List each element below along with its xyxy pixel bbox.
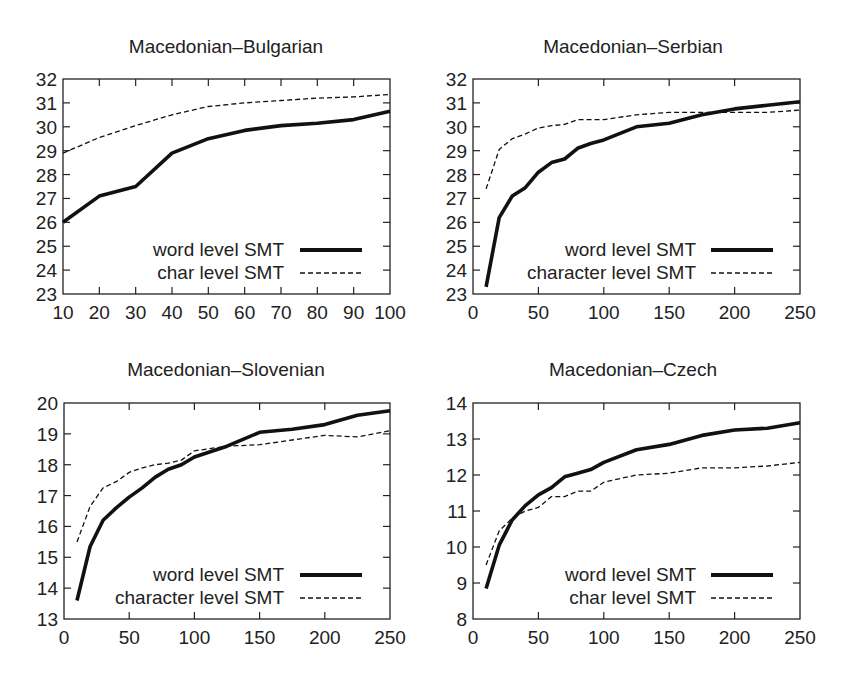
y-tick-label: 26	[36, 212, 57, 233]
char-level-line	[63, 95, 390, 154]
x-tick-label: 50	[119, 627, 140, 648]
legend-label-char: character level SMT	[527, 262, 696, 283]
y-tick-label: 29	[446, 141, 467, 162]
y-tick-label: 27	[36, 188, 57, 209]
y-tick-label: 18	[37, 455, 58, 476]
legend: word level SMT character level SMT	[527, 239, 773, 283]
x-tick-label: 200	[719, 302, 751, 323]
legend-label-char: char level SMT	[157, 262, 284, 283]
x-tick-label: 100	[588, 302, 620, 323]
x-tick-label: 100	[374, 302, 406, 323]
char-level-line	[486, 462, 800, 565]
y-tick-label: 24	[36, 260, 58, 281]
y-tick-label: 32	[36, 69, 57, 90]
x-tick-label: 50	[528, 627, 549, 648]
y-tick-label: 15	[37, 547, 58, 568]
axes: 050100150200250891011121314	[446, 393, 816, 648]
panel-title: Macedonian–Bulgarian	[129, 36, 323, 57]
y-tick-label: 25	[36, 236, 57, 257]
x-tick-label: 90	[343, 302, 364, 323]
x-tick-label: 0	[59, 627, 70, 648]
x-tick-label: 250	[784, 627, 816, 648]
legend-label-word: word level SMT	[152, 564, 284, 585]
char-level-line	[77, 431, 390, 542]
x-tick-label: 60	[234, 302, 255, 323]
y-tick-label: 17	[37, 486, 58, 507]
x-tick-label: 70	[270, 302, 291, 323]
x-tick-label: 80	[307, 302, 328, 323]
y-tick-label: 8	[456, 609, 467, 630]
legend: word level SMT character level SMT	[115, 564, 362, 608]
y-tick-label: 11	[447, 501, 467, 522]
x-tick-label: 250	[374, 627, 406, 648]
y-tick-label: 24	[446, 260, 468, 281]
y-tick-label: 25	[446, 236, 467, 257]
legend-label-char: character level SMT	[115, 587, 284, 608]
legend: word level SMT char level SMT	[564, 564, 773, 608]
x-tick-label: 50	[528, 302, 549, 323]
x-tick-label: 200	[719, 627, 751, 648]
y-tick-label: 28	[36, 165, 57, 186]
y-tick-label: 30	[36, 117, 57, 138]
x-tick-label: 0	[468, 302, 479, 323]
x-tick-label: 150	[244, 627, 276, 648]
x-tick-label: 40	[161, 302, 182, 323]
x-tick-label: 150	[653, 627, 685, 648]
x-tick-label: 100	[588, 627, 620, 648]
legend-label-char: char level SMT	[569, 587, 696, 608]
y-tick-label: 23	[36, 284, 57, 305]
panel-macedonian-bulgarian: Macedonian–Bulgarian 1020304050607080901…	[36, 36, 406, 323]
word-level-line	[63, 111, 390, 222]
y-tick-label: 13	[37, 609, 58, 630]
panel-macedonian-slovenian: Macedonian–Slovenian 0501001502002501314…	[37, 359, 406, 648]
panel-title: Macedonian–Czech	[549, 359, 717, 380]
y-tick-label: 30	[446, 117, 467, 138]
x-tick-label: 30	[125, 302, 146, 323]
y-tick-label: 13	[446, 429, 467, 450]
x-tick-label: 150	[653, 302, 685, 323]
panel-macedonian-czech: Macedonian–Czech 05010015020025089101112…	[446, 359, 816, 648]
y-tick-label: 26	[446, 212, 467, 233]
x-tick-label: 250	[784, 302, 816, 323]
y-tick-label: 9	[456, 573, 467, 594]
y-tick-label: 31	[446, 93, 467, 114]
legend-label-word: word level SMT	[564, 564, 696, 585]
y-tick-label: 29	[36, 141, 57, 162]
x-tick-label: 0	[468, 627, 479, 648]
y-tick-label: 31	[36, 93, 57, 114]
legend-label-word: word level SMT	[564, 239, 696, 260]
panel-title: Macedonian–Serbian	[543, 36, 723, 57]
y-tick-label: 27	[446, 188, 467, 209]
panel-title: Macedonian–Slovenian	[127, 359, 325, 380]
figure: Macedonian–Bulgarian 1020304050607080901…	[0, 0, 843, 677]
y-tick-label: 14	[37, 578, 59, 599]
y-tick-label: 32	[446, 69, 467, 90]
plot-lines	[63, 95, 390, 223]
y-tick-label: 19	[37, 424, 58, 445]
y-tick-label: 28	[446, 165, 467, 186]
legend: word level SMT char level SMT	[152, 239, 362, 283]
axes: 1020304050607080901002324252627282930313…	[36, 69, 406, 323]
x-tick-label: 200	[309, 627, 341, 648]
x-tick-label: 100	[179, 627, 211, 648]
x-tick-label: 20	[89, 302, 110, 323]
x-tick-label: 50	[198, 302, 219, 323]
y-tick-label: 14	[446, 393, 468, 414]
axes: 0501001502002501314151617181920	[37, 393, 406, 648]
legend-label-word: word level SMT	[152, 239, 284, 260]
y-tick-label: 16	[37, 516, 58, 537]
y-tick-label: 12	[446, 465, 467, 486]
x-tick-label: 10	[52, 302, 73, 323]
y-tick-label: 10	[446, 537, 467, 558]
panel-macedonian-serbian: Macedonian–Serbian 050100150200250232425…	[446, 36, 816, 323]
y-tick-label: 20	[37, 393, 58, 414]
y-tick-label: 23	[446, 284, 467, 305]
